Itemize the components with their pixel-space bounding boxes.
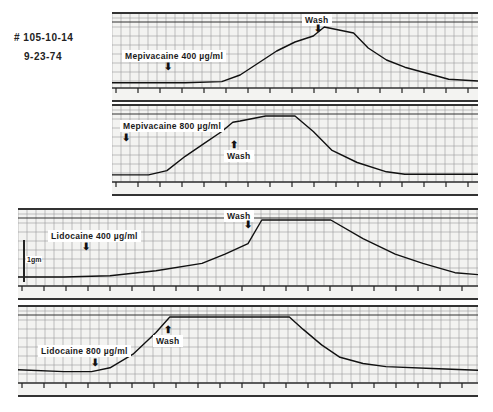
arrow-up-icon: ⬆ xyxy=(164,325,172,335)
drug-label: Mepivacaine 800 µg/ml xyxy=(120,120,224,132)
trace-panel-mepivacaine-400: Mepivacaine 400 µg/ml ⬇ Wash ⬇ xyxy=(112,12,478,102)
drug-label: Lidocaine 400 µg/ml xyxy=(48,230,141,242)
trace-panel-lidocaine-400: Lidocaine 400 µg/ml ⬇ Wash ⬇ 1gm xyxy=(18,208,478,300)
record-id: # 105-10-14 xyxy=(14,32,73,43)
arrow-down-icon: ⬇ xyxy=(122,133,130,143)
arrow-down-icon: ⬇ xyxy=(244,220,252,230)
trace-panel-lidocaine-800: Lidocaine 800 µg/ml ⬇ Wash ⬆ xyxy=(18,305,478,397)
trace-panel-mepivacaine-800: Mepivacaine 800 µg/ml ⬇ Wash ⬆ xyxy=(112,104,478,196)
arrow-down-icon: ⬇ xyxy=(314,24,322,34)
scale-label: 1gm xyxy=(26,256,42,263)
drug-label: Mepivacaine 400 µg/ml xyxy=(122,50,226,62)
arrow-up-icon: ⬆ xyxy=(230,140,238,150)
drug-label: Lidocaine 800 µg/ml xyxy=(38,345,131,357)
arrow-down-icon: ⬇ xyxy=(91,358,99,368)
scale-bar xyxy=(23,240,25,282)
record-date: 9-23-74 xyxy=(24,51,62,62)
wash-label: Wash xyxy=(224,150,254,162)
arrow-down-icon: ⬇ xyxy=(82,242,90,252)
wash-label: Wash xyxy=(153,335,183,347)
arrow-down-icon: ⬇ xyxy=(164,62,172,72)
